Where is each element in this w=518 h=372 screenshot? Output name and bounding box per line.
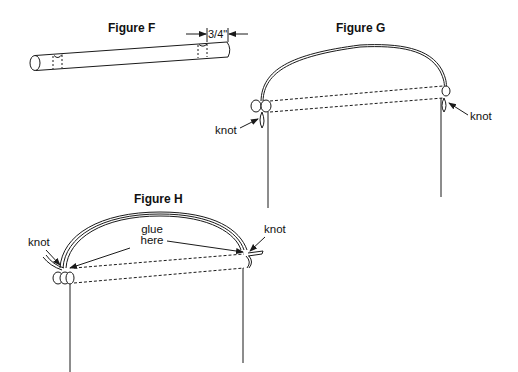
figure-h-glue-label-line2: here: [136, 235, 168, 246]
figure-h-knot-right-label: knot: [264, 224, 286, 235]
figure-g-drawing: [240, 45, 468, 208]
figure-g-title: Figure G: [336, 21, 385, 35]
figure-f-dimension-label: 3/4": [208, 28, 227, 40]
diagram-canvas: Figure F 3/4" Figure G knot knot Figure …: [0, 0, 518, 372]
diagram-drawing: [0, 0, 518, 372]
figure-h-title: Figure H: [134, 192, 183, 206]
figure-g-knot-left-label: knot: [215, 125, 237, 136]
figure-f-title: Figure F: [108, 21, 155, 35]
figure-h-knot-left-label: knot: [28, 237, 50, 248]
figure-g-knot-right-label: knot: [470, 111, 492, 122]
